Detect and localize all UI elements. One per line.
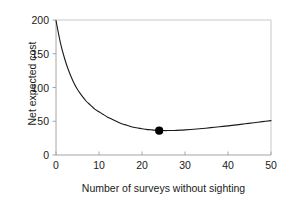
chart-figure: Net expected cost 200 150 100 50 0 0 10 … [0,0,287,202]
plot-frame [56,20,271,155]
y-axis-ticks [53,20,57,155]
plot-area [0,0,287,202]
x-axis-ticks [56,152,271,156]
data-series-line [56,21,271,131]
highlight-point-marker [155,127,163,135]
